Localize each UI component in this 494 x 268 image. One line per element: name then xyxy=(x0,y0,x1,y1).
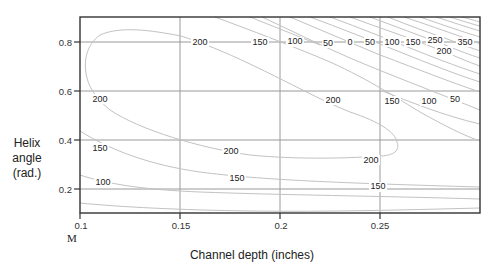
y-axis-title-line: (rad.) xyxy=(13,166,42,180)
contour-label: 200 xyxy=(325,95,340,105)
corner-label: M xyxy=(67,232,77,244)
x-tick-label: 0.15 xyxy=(172,220,191,231)
contour-label: 100 xyxy=(384,37,399,47)
y-axis-title-line: Helix xyxy=(14,136,41,150)
contour-label: 50 xyxy=(365,37,375,47)
contour-label: 150 xyxy=(405,37,420,47)
x-tick-label: 0.1 xyxy=(74,220,87,231)
contour-label: 250 xyxy=(427,35,442,45)
contour-label: 200 xyxy=(436,46,451,56)
contour-label: 100 xyxy=(421,96,436,106)
contour-label: 0 xyxy=(347,37,352,47)
x-tick-label: 0.2 xyxy=(274,220,287,231)
y-axis: 0.8 0.6 0.4 0.2 xyxy=(59,37,80,195)
contour-label: 200 xyxy=(92,94,107,104)
y-axis-title: Helix angle (rad.) xyxy=(12,136,42,180)
x-tick-label: 0.25 xyxy=(371,220,390,231)
y-axis-title-line: angle xyxy=(12,151,42,165)
y-tick-label: 0.4 xyxy=(59,135,72,146)
contour-label: 150 xyxy=(384,96,399,106)
contour-label: 200 xyxy=(363,155,378,165)
x-axis-title: Channel depth (inches) xyxy=(190,248,314,262)
y-tick-label: 0.6 xyxy=(59,86,72,97)
contour-label: 200 xyxy=(192,37,207,47)
contour-label: 150 xyxy=(252,37,267,47)
contour-label: 100 xyxy=(287,36,302,46)
contour-chart: 0.8 0.6 0.4 0.2 0.1 0.15 0.2 0.25 200 15… xyxy=(0,0,494,268)
x-axis: 0.1 0.15 0.2 0.25 xyxy=(74,213,389,231)
y-tick-label: 0.2 xyxy=(59,184,72,195)
contour-label: 150 xyxy=(370,181,385,191)
contour-label: 150 xyxy=(92,143,107,153)
contour-label: 350 xyxy=(457,37,472,47)
contour-label: 50 xyxy=(450,94,460,104)
contour-label: 50 xyxy=(323,38,333,48)
contour-label: 100 xyxy=(95,177,110,187)
contour-label: 200 xyxy=(223,146,238,156)
contour-label: 150 xyxy=(229,173,244,183)
y-tick-label: 0.8 xyxy=(59,37,72,48)
